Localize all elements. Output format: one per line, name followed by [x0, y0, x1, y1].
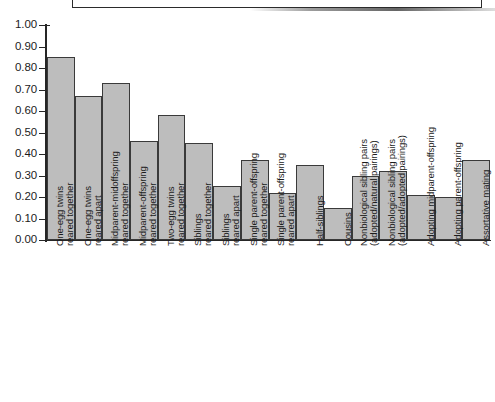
y-axis-end-cap: [45, 240, 50, 241]
x-axis-label-line2: reared apart: [287, 153, 297, 246]
y-axis-tick-label: 0.30: [0, 170, 37, 181]
x-axis-label-line1: Siblings: [220, 214, 231, 246]
x-axis-label-line2: reared together: [204, 183, 214, 246]
x-axis-label-line1: Midparent-offspring: [137, 166, 148, 246]
x-axis-label-line1: Cousins: [342, 212, 353, 246]
x-axis-label-line2: reared apart: [231, 196, 241, 246]
x-axis-label: Assortative mating: [481, 170, 491, 246]
y-axis-tick: [39, 197, 46, 198]
x-axis-label-line2: reared together: [259, 153, 269, 246]
x-axis-label-line1: Half-siblings: [314, 196, 325, 246]
y-axis-tick-label: 0.90: [0, 41, 37, 52]
x-axis-label-line1: Adopting parent-offspring: [452, 142, 463, 246]
x-axis-label-line1: Assortative mating: [480, 170, 491, 246]
x-axis-label: Cousins: [343, 212, 353, 246]
y-axis-tick: [39, 47, 46, 48]
x-axis-label-line2: reared together: [121, 151, 131, 246]
x-axis-label: Nonbiological sibling pairs(adopted/adop…: [387, 135, 408, 246]
x-axis-label: Adopting midparent-offspring: [426, 127, 436, 246]
x-axis-label-line1: Two-egg twins: [165, 187, 176, 246]
x-axis-label-line1: One-egg twins: [54, 186, 65, 246]
x-axis-label-line2: reared apart: [93, 186, 103, 246]
y-axis-tick: [39, 219, 46, 220]
x-axis-label-line2: (adopted/adopted pairings): [398, 135, 408, 246]
x-axis-label-line2: reared together: [176, 183, 186, 246]
x-axis-label-line2: reared together: [148, 166, 158, 246]
x-axis-label: Midparent-offspringreared together: [138, 166, 159, 246]
x-axis-label: Half-siblings: [315, 196, 325, 246]
x-axis-label: Siblingsreared together: [193, 183, 214, 246]
y-axis-tick-label: 0.10: [0, 213, 37, 224]
x-axis-label-line2: reared together: [65, 183, 75, 246]
y-axis-tick-label: 0.40: [0, 148, 37, 159]
x-axis-label: One-egg twinsreared apart: [83, 186, 104, 246]
x-axis-label-line1: Single parent-offspring: [248, 153, 259, 246]
y-axis-tick: [39, 133, 46, 134]
y-axis-tick-label: 1.00: [0, 19, 37, 30]
y-axis-tick-label: 0.80: [0, 62, 37, 73]
y-axis-tick-label: 0.60: [0, 105, 37, 116]
x-axis-label: One-egg twinsreared together: [55, 183, 76, 246]
x-axis-label-line2: (adopted/natural pairings): [370, 139, 380, 246]
x-axis-label: Single parent-offspringreared together: [249, 153, 270, 246]
y-axis-tick: [39, 176, 46, 177]
x-axis-label-line1: Adopting midparent-offspring: [425, 127, 436, 246]
x-axis-label: Adopting parent-offspring: [453, 142, 463, 246]
y-axis-tick-label: 0.00: [0, 234, 37, 245]
y-axis-tick-label: 0.70: [0, 84, 37, 95]
x-axis-label: Single parent-offspringreared apart: [276, 153, 297, 246]
x-axis-label: Siblingsreared apart: [221, 196, 242, 246]
y-axis-tick: [39, 68, 46, 69]
y-axis-tick: [39, 90, 46, 91]
y-axis-tick: [39, 111, 46, 112]
x-axis-label: Nonbiological sibling pairs(adopted/natu…: [359, 139, 380, 246]
x-axis-label-line1: One-egg twins: [82, 186, 93, 246]
y-axis-tick-label: 0.20: [0, 191, 37, 202]
x-axis-label: Midparent-midoffspringreared together: [110, 151, 131, 246]
heritability-bar-chart: 1.000.900.800.700.600.500.400.300.200.10…: [0, 0, 495, 402]
x-axis-label: Two-egg twinsreared together: [166, 183, 187, 246]
y-axis-tick: [39, 154, 46, 155]
y-axis-tick-label: 0.50: [0, 127, 37, 138]
